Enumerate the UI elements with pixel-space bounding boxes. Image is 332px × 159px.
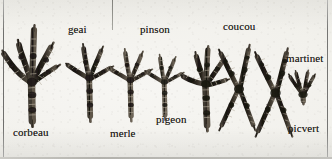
bird-feet-plate: corbeau geai merle pinson pigeon coucou … bbox=[0, 0, 332, 159]
scan-vignette bbox=[0, 0, 332, 159]
